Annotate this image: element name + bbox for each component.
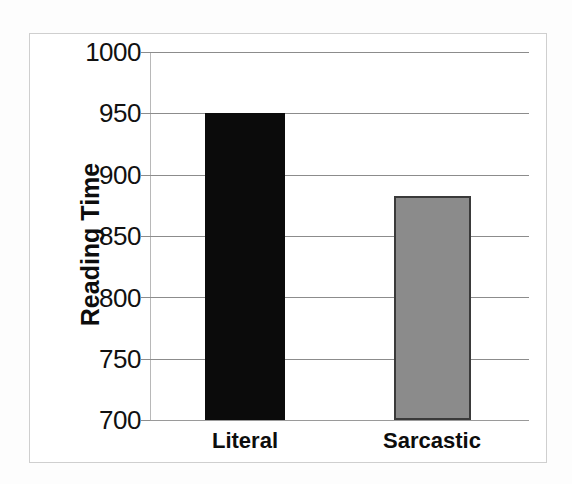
- y-axis-tick-labels: 1000 950 900 850 800 750 700: [0, 0, 141, 484]
- y-tick-label-1000: 1000: [0, 39, 141, 65]
- bar-literal[interactable]: [205, 113, 285, 420]
- y-tick-900: [141, 175, 150, 176]
- y-tick-850: [141, 236, 150, 237]
- x-category-label-sarcastic: Sarcastic: [362, 428, 502, 454]
- y-tick-label-750: 750: [0, 346, 141, 372]
- y-tick-label-700: 700: [0, 407, 141, 433]
- gridline-700: [150, 420, 529, 421]
- y-tick-label-900: 900: [0, 162, 141, 188]
- y-tick-700: [141, 420, 150, 421]
- y-tick-label-800: 800: [0, 285, 141, 311]
- y-tick-750: [141, 359, 150, 360]
- y-tick-950: [141, 113, 150, 114]
- y-tick-label-850: 850: [0, 223, 141, 249]
- y-tick-label-950: 950: [0, 100, 141, 126]
- x-category-label-literal: Literal: [185, 428, 305, 454]
- plot-area: [150, 52, 529, 420]
- y-tick-800: [141, 297, 150, 298]
- gridline-1000: [150, 52, 529, 53]
- bar-sarcastic[interactable]: [394, 196, 471, 420]
- y-tick-1000: [141, 52, 150, 53]
